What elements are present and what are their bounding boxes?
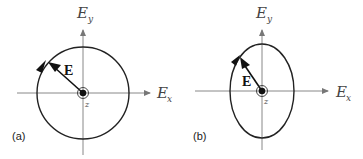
y-axis-subscript: y bbox=[266, 14, 273, 24]
vector-label: E bbox=[64, 63, 73, 78]
polarization-figure: z E E y E x (a) z E bbox=[0, 0, 363, 159]
rotation-arrow-icon bbox=[36, 60, 46, 73]
y-axis-label: E bbox=[255, 4, 267, 22]
e-vector-arrowhead-icon bbox=[240, 57, 250, 69]
z-axis-dot-icon bbox=[80, 90, 87, 97]
z-axis-dot-icon bbox=[259, 88, 266, 95]
panel-a: z E E y E x (a) bbox=[12, 4, 172, 155]
panel-label-a: (a) bbox=[12, 130, 25, 142]
x-axis-subscript: x bbox=[167, 94, 172, 104]
rotation-arrow-icon bbox=[231, 55, 240, 66]
z-label: z bbox=[263, 97, 269, 106]
vector-label: E bbox=[242, 74, 251, 89]
panel-b: z E E y E x (b) bbox=[193, 4, 351, 150]
y-axis-label: E bbox=[76, 4, 88, 22]
panel-label-b: (b) bbox=[193, 130, 206, 142]
y-axis-subscript: y bbox=[87, 14, 94, 24]
z-label: z bbox=[84, 100, 90, 109]
x-axis-subscript: x bbox=[346, 93, 351, 103]
